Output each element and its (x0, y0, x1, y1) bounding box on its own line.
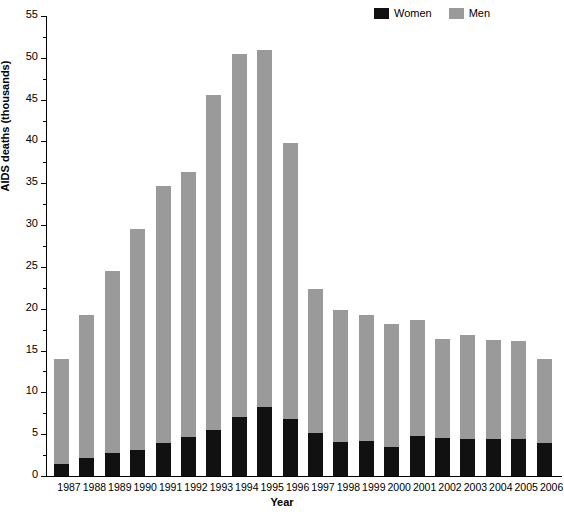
bar-segment-women (156, 443, 171, 476)
y-tick-label: 45 (26, 93, 38, 104)
bar-stack (410, 320, 425, 476)
bar-segment-men (105, 271, 120, 453)
bar-stack (232, 54, 247, 476)
bar-segment-men (486, 340, 501, 440)
bar-segment-men (333, 310, 348, 442)
bar-segment-women (460, 439, 475, 476)
bar-segment-women (206, 430, 221, 476)
bar-segment-men (460, 335, 475, 440)
y-axis-title: AIDS deaths (thousands) (0, 46, 11, 206)
y-tick-minor (43, 330, 46, 331)
bar-stack (359, 315, 374, 476)
bar-stack (54, 359, 69, 476)
bar-segment-men (156, 186, 171, 444)
y-tick-major: 10 (41, 392, 46, 393)
bar-stack (130, 229, 145, 476)
y-tick-major: 15 (41, 351, 46, 352)
bar-segment-women (232, 417, 247, 476)
bar-segment-men (511, 341, 526, 440)
bar-segment-women (181, 437, 196, 476)
bar-stack (156, 186, 171, 476)
bar-segment-women (486, 439, 501, 476)
y-tick-minor (43, 288, 46, 289)
bar-segment-men (384, 324, 399, 447)
bar-segment-men (435, 339, 450, 438)
bar-segment-women (435, 438, 450, 476)
bar-stack (206, 95, 221, 476)
bar-stack (384, 324, 399, 476)
bar-segment-men (232, 54, 247, 416)
y-tick-minor (43, 455, 46, 456)
y-tick-label: 50 (26, 51, 38, 62)
bar-segment-women (283, 419, 298, 476)
bar-stack (105, 271, 120, 476)
y-tick-minor (43, 246, 46, 247)
aids-deaths-stacked-bar-chart: Women Men 0510152025303540455055 1987198… (0, 0, 564, 516)
y-tick-major: 55 (41, 16, 46, 17)
y-tick-major: 30 (41, 225, 46, 226)
y-tick-label: 30 (26, 218, 38, 229)
bar-stack (308, 289, 323, 476)
y-tick-major: 20 (41, 309, 46, 310)
y-tick-label: 20 (26, 302, 38, 313)
x-axis-title: Year (0, 496, 564, 508)
y-tick-label: 10 (26, 385, 38, 396)
y-tick-label: 25 (26, 260, 38, 271)
x-axis-line (46, 476, 562, 477)
x-tick-label: 2006 (532, 482, 564, 493)
y-tick-label: 15 (26, 344, 38, 355)
bar-segment-women (130, 450, 145, 476)
y-tick-major: 5 (41, 434, 46, 435)
y-tick-label: 35 (26, 176, 38, 187)
y-tick-major: 35 (41, 183, 46, 184)
bar-segment-women (54, 464, 69, 476)
y-tick-label: 0 (32, 469, 38, 480)
bar-stack (181, 172, 196, 476)
y-tick-label: 5 (32, 427, 38, 438)
bar-segment-women (308, 433, 323, 476)
bar-segment-women (511, 439, 526, 476)
y-tick-major: 25 (41, 267, 46, 268)
y-tick-major: 40 (41, 141, 46, 142)
y-tick-major: 45 (41, 100, 46, 101)
bar-segment-men (54, 359, 69, 464)
bar-segment-women (537, 443, 552, 476)
y-tick-minor (43, 37, 46, 38)
y-tick-minor (43, 79, 46, 80)
y-axis-line (46, 16, 47, 476)
bar-segment-men (410, 320, 425, 436)
bar-segment-women (384, 447, 399, 476)
bar-segment-men (206, 95, 221, 430)
bar-segment-women (333, 442, 348, 476)
bar-segment-men (181, 172, 196, 436)
plot-area: 0510152025303540455055 19871988198919901… (46, 16, 562, 476)
bar-segment-men (283, 143, 298, 419)
y-tick-label: 55 (26, 9, 38, 20)
bar-segment-women (105, 453, 120, 476)
bar-stack (537, 359, 552, 476)
y-tick-minor (43, 204, 46, 205)
bar-stack (333, 310, 348, 476)
bar-segment-men (79, 315, 94, 459)
bar-stack (511, 341, 526, 476)
bar-stack (283, 143, 298, 476)
bar-segment-men (308, 289, 323, 433)
bar-segment-women (79, 458, 94, 476)
bar-segment-women (257, 407, 272, 476)
y-tick-minor (43, 162, 46, 163)
y-tick-minor (43, 121, 46, 122)
y-tick-major: 0 (41, 476, 46, 477)
y-tick-minor (43, 371, 46, 372)
y-tick-minor (43, 413, 46, 414)
bar-segment-women (410, 436, 425, 476)
bar-stack (79, 315, 94, 476)
bar-stack (486, 340, 501, 476)
bar-segment-women (359, 441, 374, 476)
y-tick-label: 40 (26, 134, 38, 145)
y-tick-major: 50 (41, 58, 46, 59)
bar-segment-men (130, 229, 145, 450)
bar-stack (257, 50, 272, 476)
bar-stack (460, 335, 475, 476)
bar-segment-men (257, 50, 272, 407)
bar-stack (435, 339, 450, 476)
